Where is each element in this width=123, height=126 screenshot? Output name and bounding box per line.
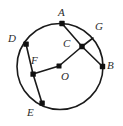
- vertex-F: [30, 71, 35, 76]
- point-label-B: B: [107, 60, 114, 71]
- vertex-E: [39, 100, 44, 105]
- segment-C-O: [59, 47, 82, 67]
- geometry-figure: A G C B O F D E: [0, 0, 123, 126]
- diagram-canvas: [0, 0, 123, 126]
- segment-F-E: [33, 74, 42, 103]
- vertex-A: [59, 21, 64, 26]
- segment-O-F: [33, 66, 59, 74]
- point-label-O: O: [61, 71, 69, 82]
- point-label-A: A: [58, 7, 65, 18]
- vertex-O: [57, 64, 62, 69]
- point-label-D: D: [8, 33, 16, 44]
- point-label-C: C: [63, 38, 70, 49]
- vertex-C: [79, 44, 84, 49]
- vertex-B: [100, 64, 105, 69]
- point-label-F: F: [31, 55, 38, 66]
- point-label-G: G: [95, 21, 103, 32]
- vertex-D: [23, 41, 28, 46]
- point-label-E: E: [27, 107, 34, 118]
